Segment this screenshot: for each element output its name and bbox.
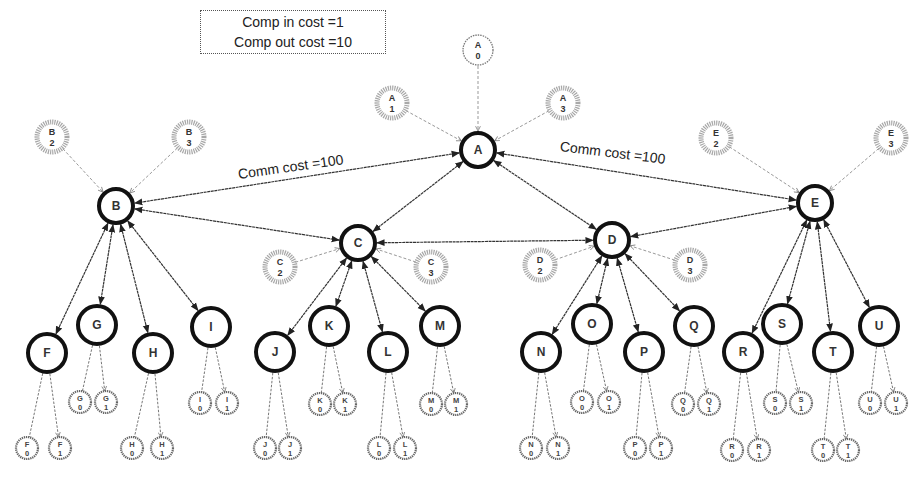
svg-text:0: 0 bbox=[429, 405, 433, 414]
node-G: G bbox=[78, 306, 116, 344]
svg-text:F: F bbox=[25, 440, 30, 449]
replica-node-D2: D2 bbox=[525, 250, 555, 280]
leaf-node-J0: J0 bbox=[254, 437, 276, 459]
leaf-node-R1: R1 bbox=[748, 439, 770, 461]
edge-B-I bbox=[128, 221, 198, 311]
leaf-edge-O1 bbox=[596, 345, 606, 392]
svg-text:1: 1 bbox=[556, 449, 560, 458]
node-U: U bbox=[860, 307, 898, 345]
leaf-edge-H1 bbox=[155, 374, 161, 437]
leaf-edge-I0 bbox=[202, 348, 208, 392]
leaf-node-I0: I0 bbox=[189, 392, 211, 414]
leaf-node-I1: I1 bbox=[216, 392, 238, 414]
svg-text:U: U bbox=[893, 395, 898, 404]
svg-text:3: 3 bbox=[560, 104, 565, 114]
leaf-node-R0: R0 bbox=[721, 439, 743, 461]
leaf-node-G0: G0 bbox=[69, 391, 91, 413]
leaf-edge-R1 bbox=[746, 373, 757, 439]
svg-text:H: H bbox=[149, 346, 158, 360]
svg-text:1: 1 bbox=[846, 451, 850, 460]
svg-text:0: 0 bbox=[475, 51, 480, 61]
edge-D-P bbox=[617, 258, 638, 332]
replica-node-A3: A3 bbox=[548, 88, 578, 118]
svg-text:D: D bbox=[608, 233, 617, 247]
leaf-edge-L0 bbox=[380, 373, 386, 437]
svg-text:J: J bbox=[288, 440, 292, 449]
communication-edges bbox=[56, 153, 869, 335]
leaf-edge-M0 bbox=[432, 347, 437, 393]
replica-edge-A1 bbox=[406, 111, 461, 141]
svg-text:R: R bbox=[756, 442, 762, 451]
leaf-node-P1: P1 bbox=[650, 437, 672, 459]
leaf-edge-P0 bbox=[636, 373, 642, 437]
svg-text:P: P bbox=[640, 345, 648, 359]
svg-text:L: L bbox=[403, 440, 408, 449]
leaf-node-T1: T1 bbox=[837, 439, 859, 461]
svg-text:G: G bbox=[103, 394, 109, 403]
svg-text:A: A bbox=[474, 143, 483, 157]
leaf-node-O1: O1 bbox=[598, 391, 620, 413]
node-R: R bbox=[724, 333, 762, 371]
edge-B-C bbox=[135, 209, 339, 240]
replica-edge-B2 bbox=[63, 149, 103, 192]
svg-text:H: H bbox=[159, 440, 164, 449]
leaf-edge-T1 bbox=[836, 373, 846, 439]
replica-edge-D3 bbox=[630, 246, 675, 260]
svg-text:L: L bbox=[377, 440, 382, 449]
svg-text:C: C bbox=[277, 257, 284, 267]
leaf-edge-N1 bbox=[545, 373, 556, 437]
replica-edges bbox=[29, 66, 893, 439]
edge-C-D bbox=[377, 240, 593, 243]
svg-text:T: T bbox=[829, 345, 837, 359]
svg-text:0: 0 bbox=[318, 405, 322, 414]
svg-text:1: 1 bbox=[160, 449, 164, 458]
svg-text:E: E bbox=[811, 196, 819, 210]
svg-text:1: 1 bbox=[707, 405, 711, 414]
leaf-edge-G1 bbox=[99, 346, 104, 391]
svg-text:U: U bbox=[867, 395, 872, 404]
leaf-node-N1: N1 bbox=[547, 437, 569, 459]
svg-text:M: M bbox=[435, 319, 445, 333]
svg-text:1: 1 bbox=[799, 404, 803, 413]
svg-text:1: 1 bbox=[757, 451, 761, 460]
svg-text:Q: Q bbox=[680, 396, 686, 405]
svg-text:0: 0 bbox=[78, 403, 82, 412]
replica-node-C2: C2 bbox=[265, 252, 295, 282]
leaf-edge-K0 bbox=[321, 347, 326, 393]
node-Q: Q bbox=[675, 307, 713, 345]
leaf-node-L0: L0 bbox=[368, 437, 390, 459]
svg-text:0: 0 bbox=[198, 404, 202, 413]
svg-text:1: 1 bbox=[104, 403, 108, 412]
node-I: I bbox=[192, 308, 230, 346]
svg-text:1: 1 bbox=[607, 403, 611, 412]
svg-text:0: 0 bbox=[868, 404, 872, 413]
svg-text:3: 3 bbox=[687, 266, 692, 276]
svg-text:O: O bbox=[606, 394, 612, 403]
svg-text:1: 1 bbox=[403, 449, 407, 458]
edge-C-L bbox=[363, 261, 382, 331]
svg-text:0: 0 bbox=[580, 403, 584, 412]
leaf-edge-S0 bbox=[776, 345, 780, 392]
leaf-edge-N0 bbox=[532, 373, 539, 437]
svg-text:I: I bbox=[226, 395, 228, 404]
network-diagram: A0A1A3B2B3C2C3D2D3E2E3 F0F1G0G1H0H1I0I1J… bbox=[0, 0, 917, 483]
edge-A-D bbox=[494, 161, 596, 230]
node-D: D bbox=[595, 223, 629, 257]
leaf-nodes: F0F1G0G1H0H1I0I1J0J1K0K1L0L1M0M1N0N1O0O1… bbox=[16, 391, 907, 461]
svg-text:1: 1 bbox=[225, 404, 229, 413]
svg-text:0: 0 bbox=[821, 451, 825, 460]
leaf-edge-P1 bbox=[648, 373, 659, 437]
leaf-edge-J0 bbox=[266, 373, 273, 437]
svg-text:B: B bbox=[186, 127, 193, 137]
comp-out-cost-label: Comp out cost =10 bbox=[201, 32, 385, 52]
node-L: L bbox=[369, 333, 407, 371]
leaf-edge-Q1 bbox=[698, 347, 707, 394]
edge-D-E bbox=[631, 206, 797, 236]
edge-E-S bbox=[788, 221, 810, 303]
leaf-edge-H0 bbox=[134, 374, 148, 438]
svg-text:E: E bbox=[713, 128, 719, 138]
svg-text:G: G bbox=[77, 394, 83, 403]
svg-text:1: 1 bbox=[894, 404, 898, 413]
replica-node-A0: A0 bbox=[463, 35, 493, 65]
svg-text:I: I bbox=[209, 320, 212, 334]
